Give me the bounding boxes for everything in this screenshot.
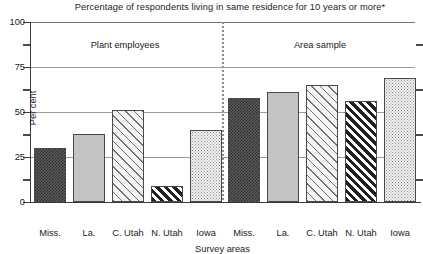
x-label-plant-n-utah: N. Utah	[145, 228, 189, 238]
bar-area-iowa[interactable]	[384, 78, 416, 202]
x-axis-title: Survey areas	[30, 244, 415, 254]
y-minor-tick-right-37	[416, 134, 423, 136]
plot-area: 100 75 50 25 0 Per cent Plant employees …	[30, 22, 415, 202]
bar-plant-iowa[interactable]	[190, 130, 222, 202]
x-label-plant-c-utah: C. Utah	[106, 228, 150, 238]
y-minor-tick-right-87	[416, 44, 423, 46]
y-axis-title: Per cent	[28, 91, 38, 126]
y-tick-label-50: 50	[0, 107, 25, 117]
x-label-area-n-utah: N. Utah	[339, 228, 383, 238]
x-label-area-la: La.	[261, 228, 305, 238]
y-minor-tick-right-12	[416, 179, 423, 181]
bar-plant-la[interactable]	[73, 134, 105, 202]
x-label-area-iowa: Iowa	[378, 228, 422, 238]
bar-plant-miss[interactable]	[34, 148, 66, 202]
y-tick-label-100: 100	[0, 17, 25, 27]
x-label-area-miss: Miss.	[222, 228, 266, 238]
bar-area-la[interactable]	[267, 92, 299, 202]
y-minor-tick-right-62	[416, 89, 423, 91]
y-tick-label-25: 25	[0, 152, 25, 162]
group-divider	[222, 22, 224, 202]
bar-plant-c-utah[interactable]	[112, 110, 144, 202]
bar-plant-n-utah[interactable]	[151, 186, 183, 202]
x-axis-line	[24, 202, 421, 203]
y-minor-tick-12	[23, 179, 30, 181]
x-label-plant-la: La.	[67, 228, 111, 238]
y-minor-tick-37	[23, 134, 30, 136]
bar-area-c-utah[interactable]	[306, 85, 338, 202]
group-caption-plant-employees: Plant employees	[60, 40, 190, 50]
x-label-plant-miss: Miss.	[28, 228, 72, 238]
x-label-area-c-utah: C. Utah	[300, 228, 344, 238]
y-tick-label-0: 0	[0, 197, 25, 207]
bar-area-miss[interactable]	[228, 98, 260, 202]
y-tick-label-75: 75	[0, 62, 25, 72]
y-minor-tick-87	[23, 44, 30, 46]
chart-title: Percentage of respondents living in same…	[60, 2, 400, 12]
group-caption-area-sample: Area sample	[265, 40, 375, 50]
bar-area-n-utah[interactable]	[345, 101, 377, 202]
